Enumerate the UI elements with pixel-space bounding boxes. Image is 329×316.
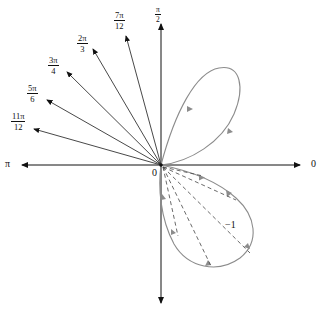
ray-label-7pi-12: 7π 12 bbox=[114, 11, 125, 32]
dashed-ray-3 bbox=[163, 167, 250, 253]
ray-label-11pi-12: 11π 12 bbox=[11, 112, 25, 133]
lower-lobe-arrow-6 bbox=[161, 194, 166, 200]
ray-label-3pi-4: 3π 4 bbox=[48, 56, 59, 77]
axis-label-pi-over-2-denominator: 2 bbox=[155, 16, 161, 24]
ray-label-7pi-12-numerator: 7π bbox=[114, 11, 125, 20]
ray-label-11pi-12-denominator: 12 bbox=[11, 123, 25, 132]
axis-label-pi-over-2-numerator: π bbox=[155, 6, 161, 14]
upper-lobe-curve bbox=[161, 68, 240, 165]
ray-line-2pi-3 bbox=[93, 49, 161, 165]
origin-label: 0 bbox=[152, 168, 157, 178]
ray-label-7pi-12-denominator: 12 bbox=[114, 22, 125, 31]
lower-lobe-arrow-1 bbox=[199, 175, 205, 181]
ray-label-5pi-6: 5π 6 bbox=[27, 84, 38, 105]
dashed-ray-5 bbox=[163, 167, 178, 236]
lower-lobe-dashed-rays bbox=[163, 167, 250, 266]
lower-lobe-arrow-4 bbox=[205, 260, 211, 266]
ray-label-11pi-12-numerator: 11π bbox=[11, 112, 25, 121]
ray-label-2pi-3-numerator: 2π bbox=[77, 34, 88, 43]
upper-lobe-arrow-2 bbox=[227, 128, 233, 134]
plot-canvas bbox=[0, 0, 329, 316]
ray-label-2pi-3: 2π 3 bbox=[77, 34, 88, 55]
ray-label-3pi-4-denominator: 4 bbox=[48, 67, 59, 76]
radius-label-minus-one: −1 bbox=[225, 220, 236, 230]
origin-point bbox=[159, 163, 163, 167]
ray-label-3pi-4-numerator: 3π bbox=[48, 56, 59, 65]
axis-label-pi: π bbox=[5, 159, 10, 169]
lower-lobe-arrow-5 bbox=[171, 229, 176, 235]
dashed-ray-4 bbox=[163, 167, 211, 266]
ray-line-7pi-12 bbox=[126, 36, 161, 165]
polar-plot-figure: 7π 12 2π 3 3π 4 5π 6 11π 12 bbox=[0, 0, 329, 316]
axis-label-pi-over-2: π 2 bbox=[155, 6, 161, 25]
dashed-ray-2 bbox=[163, 167, 236, 200]
ray-line-3pi-4 bbox=[67, 72, 161, 165]
ray-label-5pi-6-denominator: 6 bbox=[27, 95, 38, 104]
ray-line-11pi-12 bbox=[34, 129, 161, 165]
ray-line-5pi-6 bbox=[47, 100, 161, 165]
ray-label-2pi-3-denominator: 3 bbox=[77, 45, 88, 54]
axis-label-zero-right: 0 bbox=[311, 159, 316, 169]
ray-label-5pi-6-numerator: 5π bbox=[27, 84, 38, 93]
upper-lobe-arrow-1 bbox=[187, 106, 193, 112]
